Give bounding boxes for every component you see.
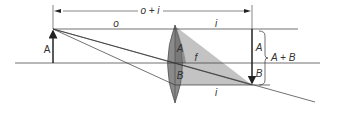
dimension-arrow-right [244, 9, 251, 13]
dimension-arrow-left [54, 9, 61, 13]
ray-2 [53, 29, 175, 85]
label-image-upper: A [255, 42, 263, 53]
ray-3 [53, 29, 175, 63]
light-cone [175, 26, 252, 85]
label-lens-lower: B [177, 70, 184, 81]
label-lens-upper: A [176, 43, 184, 54]
label-image-total: A + B [270, 52, 296, 63]
label-image-lower: B [256, 68, 263, 79]
label-image-distance-bottom: i [215, 87, 218, 98]
label-total-distance: o + i [140, 5, 160, 16]
label-image-distance-top: i [215, 18, 218, 29]
label-object-distance: o [113, 18, 119, 29]
label-object: A [44, 44, 51, 55]
lens-diagram: o + i o i i A A B f A B A + B [0, 0, 337, 114]
